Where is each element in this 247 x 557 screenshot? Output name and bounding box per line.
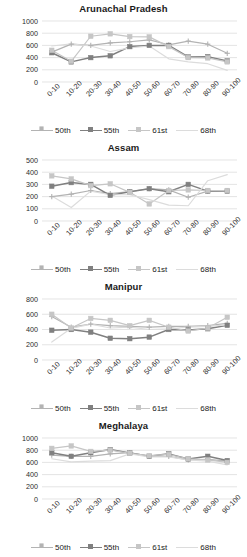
legend-item-68th[interactable]: 68th [176,126,216,135]
legend-label: 68th [200,543,216,552]
legend-swatch-icon [80,265,102,273]
data-point-61st [166,44,171,49]
y-tick-label: 500 [26,156,38,165]
data-point-61st [166,452,171,457]
data-point-55th [88,330,93,335]
legend-item-61st[interactable]: 61st [128,543,167,552]
legend-swatch-icon [176,126,198,134]
data-point-55th [49,450,54,455]
y-tick-label: 0 [34,356,38,365]
legend-label: 61st [152,265,167,274]
plot-svg: 0200400600800 [0,294,247,368]
legend-label: 55th [104,404,120,413]
data-point-61st [225,188,230,193]
data-point-61st [147,453,152,458]
y-tick-label: 400 [26,168,38,177]
x-axis-labels: 0-1010-2020-3030-4040-5050-6060-7070-808… [0,368,247,396]
data-point-55th [49,328,54,333]
data-point-61st [127,34,132,39]
chart-title: Assam [0,139,247,155]
data-point-61st [88,183,93,188]
legend-item-61st[interactable]: 61st [128,126,167,135]
y-tick-label: 400 [26,325,38,334]
data-point-61st [186,329,191,334]
data-point-61st [166,188,171,193]
data-point-61st [147,202,152,207]
y-tick-label: 200 [26,340,38,349]
legend-label: 61st [152,126,167,135]
legend-label: 68th [200,265,216,274]
legend-item-50th[interactable]: 50th [31,404,71,413]
legend-swatch-icon [80,543,102,551]
data-point-61st [69,177,74,182]
data-point-61st [127,451,132,456]
data-point-50th [108,40,113,45]
y-tick-label: 1000 [22,17,38,26]
legend-label: 61st [152,543,167,552]
data-point-61st [127,323,132,328]
legend-item-68th[interactable]: 68th [176,265,216,274]
legend-swatch-icon [176,543,198,551]
legend-item-61st[interactable]: 61st [128,265,167,274]
y-tick-label: 400 [26,53,38,62]
legend-swatch-icon [128,126,150,134]
data-point-50th [127,39,132,44]
y-tick-label: 800 [26,446,38,455]
data-point-61st [225,315,230,320]
data-point-61st [88,316,93,321]
y-tick-label: 200 [26,192,38,201]
data-point-61st [108,32,113,37]
legend-label: 55th [104,265,120,274]
legend-label: 50th [55,404,71,413]
legend-item-68th[interactable]: 68th [176,404,216,413]
chart-panel-meghalaya: Meghalaya020040060080010000-1010-2020-30… [0,417,247,556]
data-point-61st [205,188,210,193]
data-point-61st [186,188,191,193]
legend-item-50th[interactable]: 50th [31,265,71,274]
legend-item-50th[interactable]: 50th [31,543,71,552]
chart-legend: 50th55th61st68th [0,396,247,418]
series-line-68th [52,175,228,208]
data-point-61st [49,48,54,53]
y-tick-label: 1000 [22,434,38,443]
chart-panel-arunachal-pradesh: Arunachal Pradesh020040060080010000-1010… [0,0,247,139]
data-point-55th [108,53,113,58]
data-point-55th [69,454,74,459]
legend-item-68th[interactable]: 68th [176,543,216,552]
plot-area: 02004006008001000 [0,433,247,507]
data-point-55th [127,336,132,341]
y-tick-label: 800 [26,295,38,304]
data-point-50th [225,51,230,56]
data-point-55th [147,186,152,191]
legend-item-61st[interactable]: 61st [128,404,167,413]
legend-item-55th[interactable]: 55th [80,404,120,413]
chart-panel-assam: Assam01002003004005000-1010-2020-3030-40… [0,139,247,278]
y-tick-label: 800 [26,29,38,38]
legend-swatch-icon [128,543,150,551]
legend-item-55th[interactable]: 55th [80,265,120,274]
chart-title: Manipur [0,278,247,294]
data-point-50th [88,322,93,327]
data-point-61st [49,446,54,451]
x-axis-labels: 0-1010-2020-3030-4040-5050-6060-7070-808… [0,229,247,257]
legend-item-55th[interactable]: 55th [80,126,120,135]
data-point-55th [147,43,152,48]
data-point-61st [186,456,191,461]
data-point-61st [69,444,74,449]
data-point-61st [225,60,230,65]
chart-legend: 50th55th61st68th [0,535,247,557]
data-point-61st [108,318,113,323]
data-point-61st [147,318,152,323]
plot-svg: 02004006008001000 [0,16,247,90]
series-line-55th [52,45,228,61]
data-point-55th [127,44,132,49]
legend-item-50th[interactable]: 50th [31,126,71,135]
data-point-61st [205,56,210,61]
chart-legend: 50th55th61st68th [0,118,247,140]
data-point-50th [49,194,54,199]
y-tick-label: 400 [26,470,38,479]
legend-swatch-icon [128,404,150,412]
legend-item-55th[interactable]: 55th [80,543,120,552]
series-line-50th [52,317,228,328]
data-point-61st [88,449,93,454]
